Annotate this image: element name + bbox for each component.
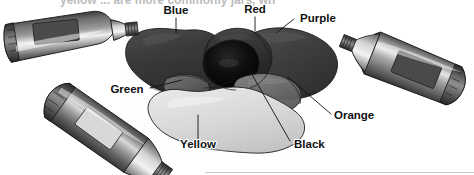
label-blue: Blue <box>164 4 189 16</box>
blob-halftone-grain <box>120 22 320 158</box>
tube-right <box>333 20 471 111</box>
label-purple: Purple <box>300 12 336 24</box>
label-red: Red <box>244 3 266 15</box>
tube-left-nozzle <box>125 22 138 36</box>
label-black: Black <box>294 138 325 150</box>
tube-left <box>2 7 140 63</box>
figure-root: yellow ... are more commonly jars, wh <box>0 0 474 175</box>
label-green: Green <box>110 83 143 95</box>
paint-illustration-svg: yellow ... are more commonly jars, wh <box>0 0 474 175</box>
label-orange: Orange <box>334 109 374 121</box>
label-yellow: Yellow <box>180 138 216 150</box>
